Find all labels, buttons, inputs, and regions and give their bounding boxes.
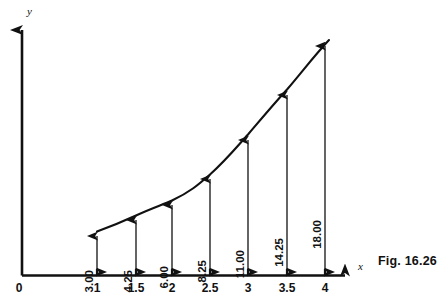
figure-container: y x 0 3.00 4.25 6 <box>0 0 446 300</box>
ordinate-value-6: 14.25 <box>273 237 285 266</box>
x-tick-label-2: 1.5 <box>128 281 145 295</box>
x-tick-6: 3.5 <box>279 269 296 295</box>
x-tick-label-7: 4 <box>322 281 329 295</box>
y-axis: y <box>22 5 32 276</box>
function-curve <box>97 40 329 232</box>
ordinate-6: 14.25 <box>273 95 287 272</box>
origin-tick-label: 0 <box>16 281 23 295</box>
x-tick-label-3: 2 <box>169 281 176 295</box>
ordinate-5: 11.00 <box>234 140 248 278</box>
y-axis-label: y <box>26 5 32 17</box>
ordinate-lines: 3.00 4.25 6.00 8.25 11.00 <box>83 46 325 292</box>
ordinate-value-5: 11.00 <box>234 250 246 278</box>
ordinate-value-7: 18.00 <box>311 220 323 249</box>
x-axis-label: x <box>357 260 363 272</box>
x-axis: x 0 <box>16 260 363 295</box>
ordinate-4: 8.25 <box>196 179 210 282</box>
ordinate-3: 6.00 <box>158 205 172 288</box>
curve-path <box>97 40 329 232</box>
x-tick-label-4: 2.5 <box>202 281 219 295</box>
x-tick-label-6: 3.5 <box>279 281 296 295</box>
ordinate-7: 18.00 <box>311 46 325 272</box>
x-tick-label-5: 3 <box>245 281 252 295</box>
figure-caption: Fig. 16.26 <box>378 254 437 268</box>
x-tick-label-1: 1 <box>94 281 101 295</box>
x-tick-7: 4 <box>322 269 329 295</box>
ordinate-value-4: 8.25 <box>196 259 208 282</box>
